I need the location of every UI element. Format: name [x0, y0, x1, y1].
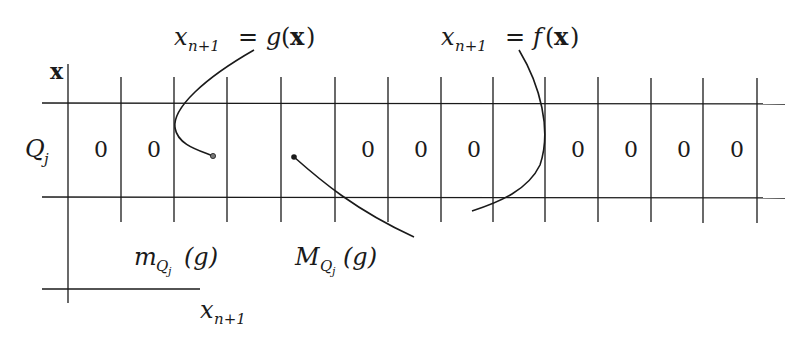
svg-text:): ) — [306, 23, 315, 51]
curves — [175, 50, 545, 237]
row-label: Q j — [25, 135, 49, 168]
svg-text:f: f — [531, 23, 546, 51]
svg-text:n+1: n+1 — [455, 37, 487, 55]
svg-text:(: ( — [545, 23, 554, 51]
cell-value: 0 — [677, 137, 691, 162]
cell-values: 0 0 0 0 0 0 0 0 0 — [94, 137, 744, 162]
svg-text:x: x — [290, 22, 305, 51]
cell-value: 0 — [147, 137, 161, 162]
svg-text:Q: Q — [320, 257, 332, 275]
svg-text:(g): (g) — [343, 243, 377, 271]
svg-text:): ) — [570, 23, 579, 51]
diagram-canvas: 0 0 0 0 0 0 0 0 0 x Q j x n+1 = g ( x ) … — [0, 0, 801, 339]
cell-value: 0 — [361, 137, 375, 162]
g-map-label: x n+1 = g ( x ) — [174, 22, 315, 55]
svg-text:x: x — [174, 23, 188, 51]
svg-text:(g): (g) — [184, 243, 218, 271]
svg-text:=: = — [238, 23, 258, 51]
svg-text:n+1: n+1 — [214, 310, 246, 328]
svg-text:g: g — [266, 23, 281, 51]
svg-text:x: x — [441, 23, 455, 51]
svg-text:Q: Q — [156, 257, 168, 275]
row-bottom-line — [42, 197, 785, 198]
cell-value: 0 — [624, 137, 638, 162]
cell-value: 0 — [467, 137, 481, 162]
svg-text:m: m — [134, 243, 157, 271]
svg-text:n+1: n+1 — [188, 37, 220, 55]
xn1-axis-label: x n+1 — [200, 296, 246, 328]
svg-text:(: ( — [281, 23, 290, 51]
cell-value: 0 — [571, 137, 585, 162]
svg-text:Q: Q — [25, 135, 45, 163]
svg-text:=: = — [505, 23, 525, 51]
cell-value: 0 — [414, 137, 428, 162]
m-label: m Q j (g) — [134, 243, 218, 278]
svg-text:x: x — [554, 22, 569, 51]
cell-value: 0 — [730, 137, 744, 162]
svg-text:x: x — [200, 296, 214, 324]
f-map-label: x n+1 = f ( x ) — [441, 22, 579, 55]
f-curve — [472, 50, 545, 211]
x-axis-label: x — [50, 58, 64, 84]
M-endpoint-dot — [291, 154, 297, 160]
svg-text:M: M — [294, 243, 321, 271]
cell-value: 0 — [94, 137, 108, 162]
M-label: M Q j (g) — [294, 243, 377, 278]
row-top-line — [42, 103, 785, 104]
g-endpoint-dot — [210, 153, 215, 158]
